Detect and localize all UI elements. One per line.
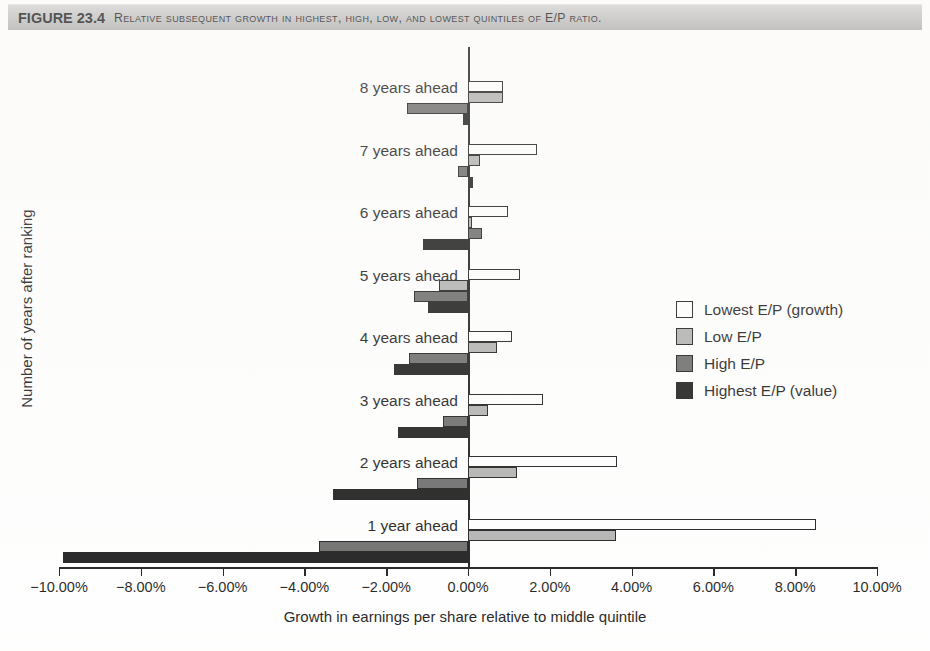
x-axis-tick [713, 567, 714, 576]
x-axis-tick [59, 567, 60, 576]
category-label: 6 years ahead [360, 204, 464, 222]
bar [458, 166, 468, 177]
bar [409, 353, 468, 364]
category-label: 7 years ahead [360, 142, 464, 160]
category-label: 1 year ahead [368, 517, 465, 535]
x-axis-tick-label: −10.00% [30, 579, 88, 595]
bar [407, 103, 468, 114]
bar [468, 331, 512, 342]
legend-label: High E/P [704, 355, 765, 373]
bar [468, 269, 520, 280]
legend-label: Lowest E/P (growth) [704, 301, 843, 319]
x-axis-tick-label: −8.00% [116, 579, 166, 595]
bar [468, 206, 508, 217]
legend-item: High E/P [676, 350, 843, 377]
x-axis-tick-label: −2.00% [361, 579, 411, 595]
legend-swatch-icon [676, 355, 693, 372]
category-label: 2 years ahead [360, 454, 464, 472]
bar [468, 81, 503, 92]
bar [468, 155, 480, 166]
category-label: 4 years ahead [360, 329, 464, 347]
x-axis-tick [550, 567, 551, 576]
bar [468, 92, 503, 103]
x-axis-label: Growth in earnings per share relative to… [0, 608, 930, 625]
figure-number: FIGURE 23.4 [18, 10, 105, 26]
x-axis-tick-label: 10.00% [852, 579, 901, 595]
bar [468, 467, 517, 478]
bar [398, 427, 468, 438]
bar [414, 291, 468, 302]
bar [428, 302, 468, 313]
bar [468, 456, 617, 467]
x-axis-tick-label: −4.00% [280, 579, 330, 595]
bar [468, 405, 488, 416]
chart-legend: Lowest E/P (growth)Low E/PHigh E/PHighes… [676, 296, 843, 404]
x-axis-tick-label: 0.00% [447, 579, 488, 595]
category-label: 3 years ahead [360, 392, 464, 410]
figure-title-bar: FIGURE 23.4 Relative subsequent growth i… [8, 4, 922, 30]
bar [468, 228, 482, 239]
x-axis-tick-label: 4.00% [611, 579, 652, 595]
zero-axis-line [468, 47, 470, 567]
bar [468, 177, 473, 188]
bar [394, 364, 468, 375]
bar [468, 530, 616, 541]
bar [463, 114, 468, 125]
x-axis-tick [795, 567, 796, 576]
bar [443, 416, 468, 427]
y-axis-label: Number of years after ranking [18, 79, 35, 539]
figure-caption: Relative subsequent growth in highest, h… [114, 11, 602, 25]
bar [423, 239, 468, 250]
bar [468, 217, 472, 228]
x-axis-tick [877, 567, 878, 576]
x-axis-tick [468, 567, 469, 576]
legend-swatch-icon [676, 301, 693, 318]
bar [439, 280, 468, 291]
bar [417, 478, 468, 489]
legend-swatch-icon [676, 382, 693, 399]
x-axis-tick [141, 567, 142, 576]
legend-label: Low E/P [704, 328, 762, 346]
x-axis-tick-label: 6.00% [693, 579, 734, 595]
legend-item: Low E/P [676, 323, 843, 350]
bar [319, 541, 468, 552]
x-axis-tick-label: 8.00% [775, 579, 816, 595]
x-axis-tick [386, 567, 387, 576]
x-axis-tick [223, 567, 224, 576]
x-axis-tick [632, 567, 633, 576]
category-label: 8 years ahead [360, 79, 464, 97]
x-axis-tick-label: 2.00% [529, 579, 570, 595]
bar [468, 342, 497, 353]
bar [333, 489, 468, 500]
bar [468, 394, 543, 405]
bar [468, 144, 537, 155]
legend-item: Lowest E/P (growth) [676, 296, 843, 323]
bar [63, 552, 468, 563]
x-axis-tick-label: −6.00% [198, 579, 248, 595]
x-axis-tick [304, 567, 305, 576]
legend-item: Highest E/P (value) [676, 377, 843, 404]
bar [468, 519, 816, 530]
legend-swatch-icon [676, 328, 693, 345]
legend-label: Highest E/P (value) [704, 382, 837, 400]
